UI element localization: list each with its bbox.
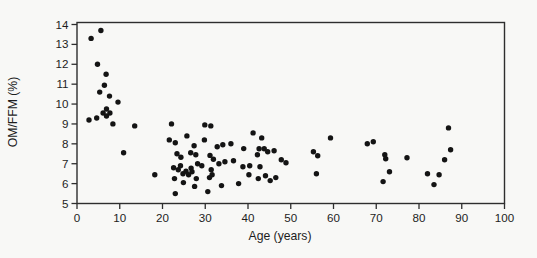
data-point <box>191 143 196 148</box>
data-point <box>97 89 102 94</box>
data-point <box>314 171 319 176</box>
data-point <box>279 157 284 162</box>
x-tick-label: 0 <box>74 211 80 224</box>
data-point <box>178 155 183 160</box>
data-point <box>380 179 385 184</box>
data-point <box>188 150 193 155</box>
data-point <box>446 125 451 130</box>
data-point <box>220 142 225 147</box>
data-point <box>448 147 453 152</box>
x-tick-label: 80 <box>413 211 426 224</box>
data-point <box>152 172 157 177</box>
y-tick-label: 12 <box>56 57 69 70</box>
data-point <box>273 175 278 180</box>
data-point <box>365 141 370 146</box>
x-tick-label: 50 <box>284 211 297 224</box>
x-tick-label: 90 <box>455 211 468 224</box>
y-tick-label: 8 <box>62 137 68 150</box>
chart-canvas: OM/FFM (%) Age (years) 56789101112131401… <box>0 0 537 258</box>
data-point <box>104 113 109 118</box>
y-axis-title: OM/FFM (%) <box>6 77 20 147</box>
x-tick-label: 30 <box>199 211 212 224</box>
data-point <box>219 183 224 188</box>
data-point <box>250 130 255 135</box>
data-point <box>88 36 93 41</box>
data-point <box>202 122 207 127</box>
data-point <box>247 163 252 168</box>
data-point <box>283 160 288 165</box>
data-point <box>102 83 107 88</box>
data-point <box>173 191 178 196</box>
data-point <box>404 155 409 160</box>
x-tick-label: 20 <box>156 211 169 224</box>
data-point <box>431 182 436 187</box>
data-point <box>255 152 260 157</box>
y-tick-label: 13 <box>56 37 69 50</box>
data-point <box>103 72 108 77</box>
data-point <box>436 172 441 177</box>
data-point <box>387 169 392 174</box>
data-point <box>207 175 212 180</box>
data-point <box>186 172 191 177</box>
data-point <box>256 176 261 181</box>
data-point <box>236 181 241 186</box>
data-point <box>263 173 268 178</box>
data-point <box>171 165 176 170</box>
data-point <box>371 139 376 144</box>
data-point <box>228 141 233 146</box>
data-point <box>115 99 120 104</box>
data-point <box>86 117 91 122</box>
data-point <box>181 180 186 185</box>
y-tick-label: 6 <box>62 177 68 190</box>
data-point <box>328 135 333 140</box>
data-point <box>215 144 220 149</box>
data-point <box>178 163 183 168</box>
data-point <box>271 148 276 153</box>
x-tick-label: 60 <box>327 211 340 224</box>
data-point <box>231 158 236 163</box>
data-point <box>173 140 178 145</box>
data-point <box>259 135 264 140</box>
data-point <box>246 172 251 177</box>
data-point <box>98 28 103 33</box>
x-axis-title: Age (years) <box>249 229 312 243</box>
data-point <box>208 123 213 128</box>
data-point <box>132 123 137 128</box>
data-point <box>107 93 112 98</box>
data-point <box>256 146 261 151</box>
y-tick-label: 7 <box>62 157 68 170</box>
data-point <box>257 164 262 169</box>
y-tick-label: 9 <box>62 117 68 130</box>
axis-ticks: 5678910111213140102030405060708090100 <box>56 18 515 224</box>
data-point <box>209 167 214 172</box>
data-point <box>268 178 273 183</box>
x-tick-label: 10 <box>113 211 126 224</box>
data-point <box>222 159 227 164</box>
x-tick-label: 100 <box>495 211 514 224</box>
data-point <box>205 189 210 194</box>
data-point <box>193 152 198 157</box>
data-point <box>184 133 189 138</box>
data-point <box>95 62 100 67</box>
data-point <box>172 176 177 181</box>
data-points <box>86 28 453 197</box>
y-tick-label: 11 <box>56 77 68 90</box>
y-tick-label: 14 <box>56 18 69 31</box>
data-point <box>315 153 320 158</box>
y-tick-label: 5 <box>62 197 68 210</box>
scatter-plot-figure: OM/FFM (%) Age (years) 56789101112131401… <box>0 0 537 258</box>
data-point <box>110 121 115 126</box>
data-point <box>311 149 316 154</box>
data-point <box>211 157 216 162</box>
data-point <box>425 171 430 176</box>
data-point <box>442 157 447 162</box>
data-point <box>94 115 99 120</box>
data-point <box>216 161 221 166</box>
data-point <box>202 137 207 142</box>
x-tick-label: 40 <box>242 211 255 224</box>
data-point <box>240 164 245 169</box>
data-point <box>383 156 388 161</box>
data-point <box>121 150 126 155</box>
data-point <box>265 149 270 154</box>
data-point <box>167 137 172 142</box>
